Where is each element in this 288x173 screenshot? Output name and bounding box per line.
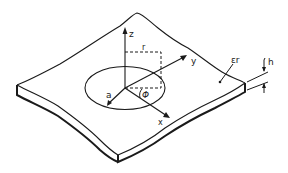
- permittivity-label: εr: [231, 55, 240, 65]
- z-axis-label: z: [129, 29, 134, 39]
- r-label: r: [142, 43, 146, 52]
- dashed-projection-lines: [125, 52, 161, 88]
- y-axis-label: y: [191, 56, 197, 66]
- x-axis-label: x: [158, 118, 163, 127]
- x-axis-arrowhead: [163, 112, 170, 118]
- substrate-left-side: [17, 85, 118, 162]
- substrate-front-left-edge: [17, 85, 118, 155]
- substrate-top-surface: [17, 13, 245, 85]
- y-axis: [125, 57, 184, 88]
- a-label: a: [106, 90, 112, 100]
- phi-label: Φ: [142, 90, 149, 100]
- thickness-extension-top: [247, 72, 268, 82]
- z-axis-arrowhead: [123, 27, 128, 34]
- permittivity-leader-line: [220, 64, 233, 82]
- microstrip-patch-diagram: z r y a Φ x εr h: [0, 0, 288, 173]
- thickness-label: h: [268, 57, 274, 67]
- substrate-front-right-edge: [118, 83, 245, 155]
- permittivity-dot: [219, 81, 222, 84]
- thickness-arrowhead-top: [262, 67, 266, 72]
